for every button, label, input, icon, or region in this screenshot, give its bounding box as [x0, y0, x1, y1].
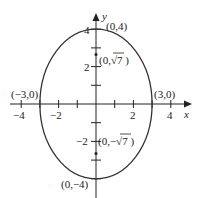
- ellipse-diagram: y x −4 −2 2 4 4 2 −2 (0,4) (0,√7 ) (−3,0…: [0, 0, 200, 198]
- x-tick-label-neg2: −2: [50, 109, 62, 121]
- x-axis-arrow-icon: [184, 101, 192, 108]
- label-focus-top: (0,√7 ): [99, 54, 129, 67]
- x-tick-label-4: 4: [167, 109, 173, 121]
- y-tick-label-neg2: −2: [76, 135, 88, 147]
- x-axis-label: x: [183, 108, 189, 120]
- focus-top-point: [95, 53, 98, 56]
- x-tick-label-neg4: −4: [13, 109, 25, 121]
- focus-bottom-point: [95, 152, 98, 155]
- label-bottom-vertex: (0,−4): [61, 178, 89, 191]
- label-focus-bottom: (0,−√7 ): [98, 135, 134, 148]
- y-tick-label-2: 2: [84, 61, 90, 73]
- label-right-vertex: (3,0): [154, 88, 175, 101]
- label-left-vertex: (−3,0): [11, 88, 39, 101]
- y-tick-label-4: 4: [84, 24, 90, 36]
- x-tick-label-2: 2: [130, 109, 136, 121]
- label-top-vertex: (0,4): [106, 20, 127, 33]
- y-axis-arrow-icon: [93, 13, 100, 21]
